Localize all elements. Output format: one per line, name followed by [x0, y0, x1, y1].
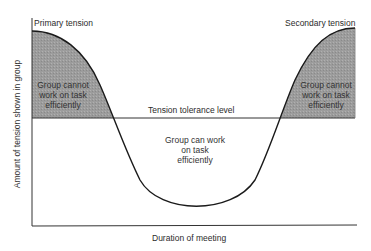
left-zone-line-1: Group cannot [34, 80, 92, 90]
middle-zone-line-2: on task [150, 145, 240, 155]
secondary-tension-label: Secondary tension [285, 18, 355, 28]
primary-tension-label: Primary tension [34, 18, 93, 28]
right-zone-line-2: work on task [296, 90, 356, 100]
left-zone-line-3: efficiently [34, 100, 92, 110]
left-zone-text: Group cannot work on task efficiently [34, 80, 92, 110]
x-axis-label: Duration of meeting [152, 233, 226, 243]
middle-zone-text: Group can work on task efficiently [150, 135, 240, 165]
tension-diagram [0, 0, 371, 251]
left-zone-line-2: work on task [34, 90, 92, 100]
middle-zone-line-1: Group can work [150, 135, 240, 145]
right-zone-line-3: efficiently [296, 100, 356, 110]
right-zone-text: Group cannot work on task efficiently [296, 80, 356, 110]
y-axis-label: Amount of tension shown in group [12, 60, 22, 189]
tolerance-label: Tension tolerance level [148, 105, 234, 115]
x-axis [32, 225, 357, 226]
middle-zone-line-3: efficiently [150, 155, 240, 165]
right-zone-line-1: Group cannot [296, 80, 356, 90]
